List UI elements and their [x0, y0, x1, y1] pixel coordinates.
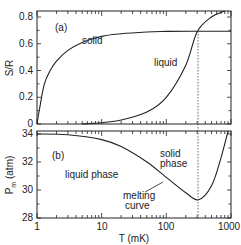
- x-tick-2: 100: [158, 221, 175, 232]
- ya-tick-3: 0.6: [19, 38, 33, 49]
- liquid-label: liquid: [154, 57, 177, 68]
- yb-tick-3: 34: [22, 128, 34, 139]
- solid-entropy-curve: [37, 31, 231, 124]
- x-axis-label: T (mK): [119, 233, 149, 244]
- yb-tick-1: 30: [22, 184, 34, 195]
- y-ticks: [37, 17, 231, 218]
- liquid-phase-label: liquid phase: [65, 169, 119, 180]
- chart-figure: 0 0.2 0.4 0.6 0.8 28 30 32 34 1 10 100 1…: [0, 0, 241, 245]
- solid-phase-label-2: phase: [160, 158, 188, 169]
- ya-tick-1: 0.2: [19, 91, 33, 102]
- x-ticks: [37, 11, 231, 218]
- panel-b-label: (b): [52, 150, 64, 161]
- y-axis-label-a: S/R: [4, 60, 15, 77]
- panel-a-label: (a): [55, 22, 67, 33]
- y-axis-label-b: Pm (atm): [4, 156, 17, 195]
- x-tick-3: 1000: [218, 221, 241, 232]
- x-tick-0: 1: [34, 221, 40, 232]
- ya-tick-2: 0.4: [19, 65, 33, 76]
- yb-tick-0: 28: [22, 212, 34, 223]
- yb-tick-2: 32: [22, 156, 34, 167]
- solid-label: solid: [82, 35, 103, 46]
- ya-tick-4: 0.8: [19, 11, 33, 22]
- x-tick-1: 10: [96, 221, 108, 232]
- melting-label-2: curve: [125, 200, 150, 211]
